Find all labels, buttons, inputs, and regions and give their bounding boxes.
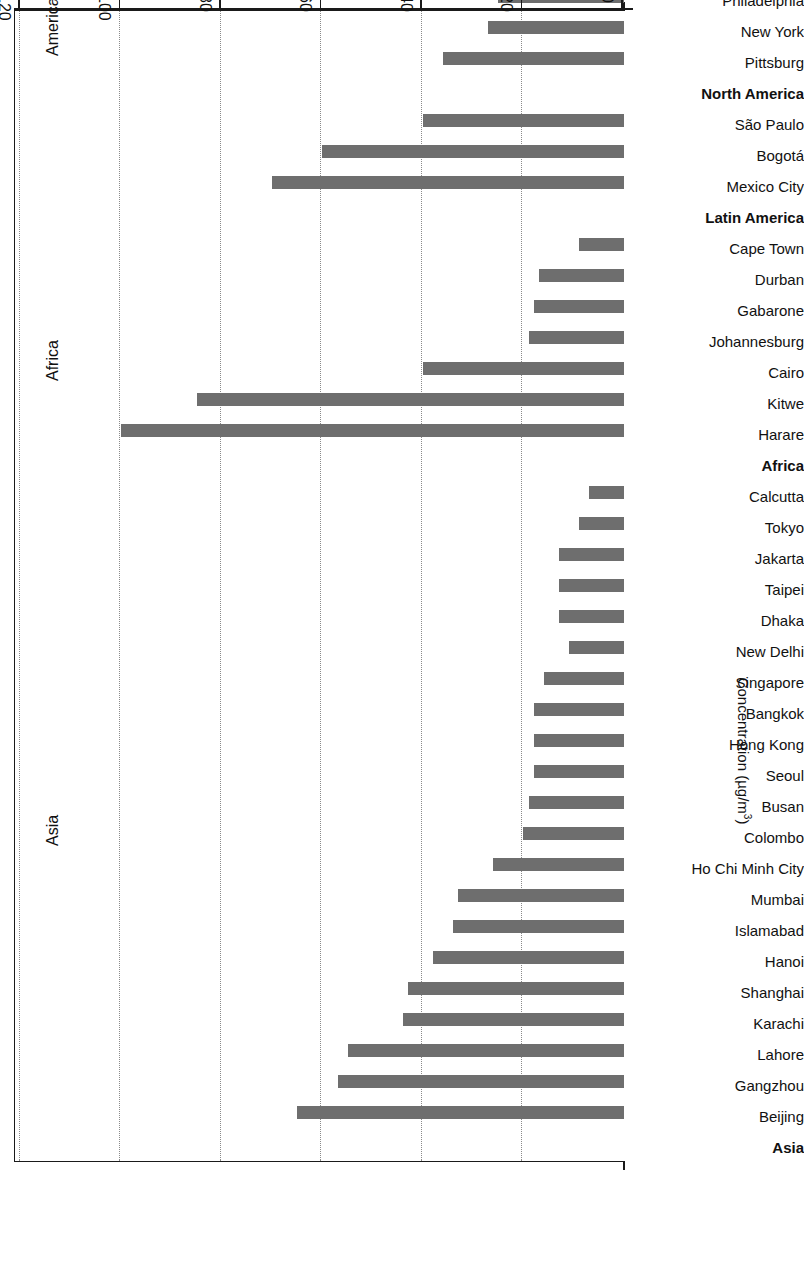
bar-row bbox=[15, 167, 625, 198]
axis-tick bbox=[521, 0, 523, 8]
category-label: Gangzhou bbox=[636, 1077, 804, 1094]
category-label: Hong Kong bbox=[636, 736, 804, 753]
bar-row bbox=[15, 322, 625, 353]
bar-row bbox=[15, 291, 625, 322]
bar-row bbox=[15, 632, 625, 663]
category-label: New Delhi bbox=[636, 643, 804, 660]
bar bbox=[197, 393, 624, 406]
category-label: Karachi bbox=[636, 1015, 804, 1032]
bar-row bbox=[15, 1004, 625, 1035]
category-label: Johannesburg bbox=[636, 333, 804, 350]
bar bbox=[122, 424, 625, 437]
bar-row bbox=[15, 570, 625, 601]
bar-row bbox=[15, 725, 625, 756]
bar bbox=[408, 982, 624, 995]
bar-row bbox=[15, 818, 625, 849]
bar bbox=[458, 889, 624, 902]
category-label: Kitwe bbox=[636, 395, 804, 412]
category-group-label: North America bbox=[636, 85, 804, 102]
bar-row bbox=[15, 353, 625, 384]
category-label: Tokyo bbox=[636, 519, 804, 536]
axis-tick bbox=[420, 0, 422, 8]
category-label: New York bbox=[636, 23, 804, 40]
bar-row bbox=[15, 446, 625, 477]
bar-row bbox=[15, 1128, 625, 1159]
category-label: Pittsburg bbox=[636, 54, 804, 71]
bar-row bbox=[15, 198, 625, 229]
bar-row bbox=[15, 973, 625, 1004]
category-label: Islamabad bbox=[636, 922, 804, 939]
bar bbox=[488, 21, 624, 34]
bar-row bbox=[15, 74, 625, 105]
bar-row bbox=[15, 1066, 625, 1097]
figure-rotation-wrapper: 020406080100120 Concentration (µg/m3) As… bbox=[0, 0, 804, 1280]
category-label: Colombo bbox=[636, 829, 804, 846]
bar-row bbox=[15, 477, 625, 508]
category-label: Gabarone bbox=[636, 302, 804, 319]
category-label: Bogotá bbox=[636, 147, 804, 164]
region-label-asia: Asia bbox=[44, 815, 62, 846]
bar bbox=[559, 548, 624, 561]
bar-row bbox=[15, 508, 625, 539]
axis-tick bbox=[219, 0, 221, 8]
axis-tick-label: 0 bbox=[598, 0, 616, 3]
bar-row bbox=[15, 694, 625, 725]
bar bbox=[297, 1106, 624, 1119]
axis-tick-label: 40 bbox=[397, 0, 415, 12]
axis-tick-label: 120 bbox=[0, 0, 13, 21]
bar bbox=[529, 331, 624, 344]
bar bbox=[338, 1075, 624, 1088]
category-label: Beijing bbox=[636, 1108, 804, 1125]
category-label: Singapore bbox=[636, 674, 804, 691]
axis-tick-label: 20 bbox=[498, 0, 516, 12]
axis-tick-label: 100 bbox=[96, 0, 114, 21]
bar-row bbox=[15, 43, 625, 74]
bar-row bbox=[15, 1097, 625, 1128]
bar bbox=[544, 672, 624, 685]
bar bbox=[559, 610, 624, 623]
bar-row bbox=[15, 601, 625, 632]
bar bbox=[534, 703, 624, 716]
bar-row bbox=[15, 756, 625, 787]
bar-row bbox=[15, 663, 625, 694]
bar bbox=[559, 579, 624, 592]
category-label: Durban bbox=[636, 271, 804, 288]
bar bbox=[493, 858, 624, 871]
plot-area bbox=[14, 10, 625, 1162]
category-label: Calcutta bbox=[636, 488, 804, 505]
bar-chart-figure: 020406080100120 Concentration (µg/m3) As… bbox=[0, 0, 804, 1280]
category-label: São Paulo bbox=[636, 116, 804, 133]
bar-row bbox=[15, 787, 625, 818]
category-label: Cairo bbox=[636, 364, 804, 381]
category-group-label: Asia bbox=[636, 1139, 804, 1156]
bar-row bbox=[15, 136, 625, 167]
bar bbox=[539, 269, 624, 282]
bar-row bbox=[15, 384, 625, 415]
bar bbox=[323, 145, 625, 158]
bar bbox=[534, 734, 624, 747]
bar bbox=[403, 1013, 624, 1026]
bar bbox=[443, 52, 624, 65]
category-label: Busan bbox=[636, 798, 804, 815]
category-label: Jakarta bbox=[636, 550, 804, 567]
category-label: Dhaka bbox=[636, 612, 804, 629]
axis-tick bbox=[18, 0, 20, 8]
bar bbox=[524, 827, 625, 840]
category-label: Cape Town bbox=[636, 240, 804, 257]
bar bbox=[579, 517, 624, 530]
category-label: Seoul bbox=[636, 767, 804, 784]
category-label: Harare bbox=[636, 426, 804, 443]
category-label: Mumbai bbox=[636, 891, 804, 908]
bar bbox=[569, 641, 624, 654]
bar bbox=[534, 300, 624, 313]
category-label: Lahore bbox=[636, 1046, 804, 1063]
bar bbox=[534, 765, 624, 778]
bar-row bbox=[15, 880, 625, 911]
bar bbox=[433, 951, 624, 964]
category-label: Taipei bbox=[636, 581, 804, 598]
bar-row bbox=[15, 260, 625, 291]
bar-row bbox=[15, 1035, 625, 1066]
region-label-africa: Africa bbox=[44, 341, 62, 382]
category-group-label: Africa bbox=[636, 457, 804, 474]
bar-row bbox=[15, 229, 625, 260]
